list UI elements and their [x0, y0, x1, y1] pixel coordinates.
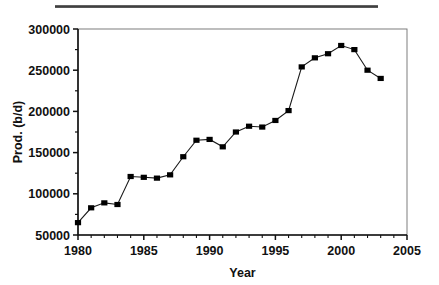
x-axis-title: Year	[229, 266, 256, 280]
data-point-marker	[299, 64, 305, 69]
data-point-marker	[128, 174, 134, 179]
plot-area-frame	[78, 29, 407, 235]
data-point-marker	[338, 43, 344, 48]
data-point-marker	[272, 118, 278, 123]
data-point-marker	[259, 124, 265, 129]
data-point-marker	[101, 200, 107, 205]
x-axis-tick-label: 1985	[130, 244, 158, 258]
data-point-marker	[167, 172, 173, 177]
x-axis-tick-label: 2000	[327, 244, 355, 258]
data-series-line	[78, 45, 381, 222]
data-point-marker	[75, 220, 81, 225]
data-point-marker	[154, 176, 160, 181]
chart-figure: 5000010000015000020000025000030000019801…	[0, 0, 439, 285]
data-point-marker	[114, 202, 120, 207]
data-point-marker	[88, 205, 94, 210]
x-axis-tick-label: 2005	[393, 244, 421, 258]
data-point-marker	[180, 154, 186, 159]
x-axis-tick-label: 1990	[196, 244, 224, 258]
y-axis-tick-label: 150000	[28, 146, 70, 160]
data-point-marker	[141, 175, 147, 180]
y-axis-tick-label: 250000	[28, 64, 70, 78]
y-axis-tick-label: 300000	[28, 23, 70, 37]
y-axis-tick-label: 100000	[28, 187, 70, 201]
data-point-marker	[325, 51, 331, 56]
data-point-marker	[351, 47, 357, 52]
data-point-marker	[285, 108, 291, 113]
y-axis-title: Prod. (b/d)	[11, 101, 25, 164]
x-axis-tick-label: 1995	[261, 244, 289, 258]
data-point-marker	[207, 137, 213, 142]
data-point-marker	[233, 129, 239, 134]
data-point-marker	[220, 144, 226, 149]
production-line-chart: 5000010000015000020000025000030000019801…	[0, 0, 439, 285]
data-point-marker	[312, 55, 318, 60]
data-point-marker	[364, 68, 370, 73]
data-point-marker	[193, 138, 199, 143]
y-axis-tick-label: 200000	[28, 105, 70, 119]
y-axis-tick-label: 50000	[35, 229, 70, 243]
data-point-marker	[246, 124, 252, 129]
data-point-marker	[378, 76, 384, 81]
x-axis-tick-label: 1980	[64, 244, 92, 258]
